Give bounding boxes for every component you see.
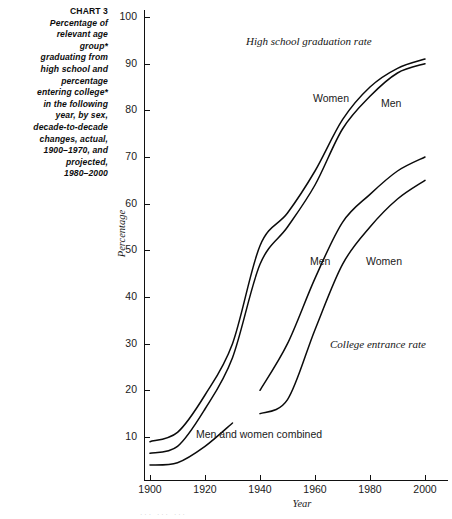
series-label-college-women: Women (366, 255, 402, 267)
chart-page: CHART 3 Percentage of relevant age group… (0, 0, 452, 519)
footnote-strip: ··· ··· ··· (140, 511, 187, 518)
series-label-combined: Men and women combined (196, 428, 322, 440)
annotation-high-school-graduation-rate: High school graduation rate (246, 35, 372, 47)
series-label-college-men: Men (310, 255, 330, 267)
series-label-hs-men: Men (381, 97, 401, 109)
annotation-college-entrance-rate: College entrance rate (330, 338, 426, 350)
series-label-hs-women: Women (313, 92, 349, 104)
plot-area: 102030405060708090100 190019201940196019… (0, 0, 452, 519)
series-line-men (260, 157, 425, 390)
series-line-women (150, 59, 425, 442)
